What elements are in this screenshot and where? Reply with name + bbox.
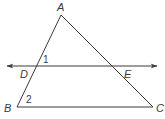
segment-ac <box>61 15 153 107</box>
label-d: D <box>20 68 28 80</box>
label-b: B <box>4 102 11 114</box>
diagram-canvas: A D E B C 1 2 <box>0 0 165 119</box>
segment-ab <box>17 15 61 107</box>
label-e: E <box>124 68 132 80</box>
triangle-diagram: A D E B C 1 2 <box>0 0 165 119</box>
label-c: C <box>156 102 164 114</box>
angle-2-label: 2 <box>26 94 32 105</box>
angle-1-label: 1 <box>43 54 49 65</box>
label-a: A <box>56 1 64 13</box>
